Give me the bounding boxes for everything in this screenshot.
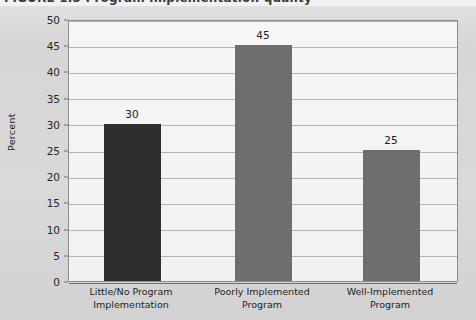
x-axis-label-2-line-1: Poorly Implemented — [214, 286, 310, 299]
figure-container: FIGURE 1.3 Program implementation qualit… — [0, 0, 476, 320]
y-tick-label-30: 30 — [47, 119, 60, 131]
y-axis-ticks: 05101520253035404550 — [0, 20, 68, 282]
y-tick-label-15: 15 — [47, 197, 60, 209]
y-tick-label-35: 35 — [47, 93, 60, 105]
x-axis-label-1-line-2: Implementation — [89, 299, 172, 312]
y-tick-label-0: 0 — [53, 276, 60, 288]
x-axis-label-3: Well-ImplementedProgram — [347, 286, 434, 311]
x-axis-label-1-line-1: Little/No Program — [89, 286, 172, 299]
x-axis-labels: Little/No ProgramImplementationPoorly Im… — [68, 286, 458, 320]
y-tick-label-25: 25 — [47, 145, 60, 157]
x-axis-label-1: Little/No ProgramImplementation — [89, 286, 172, 311]
y-tick-label-5: 5 — [53, 250, 60, 262]
bar-series: 304525 — [69, 21, 457, 281]
y-tick-label-45: 45 — [47, 40, 60, 52]
bar-3[interactable]: 25 — [363, 150, 420, 281]
x-axis-label-3-line-2: Program — [347, 299, 434, 312]
bar-1[interactable]: 30 — [104, 124, 161, 281]
x-axis-label-2: Poorly ImplementedProgram — [214, 286, 310, 311]
bar-value-label-1: 30 — [125, 108, 138, 120]
y-tick-label-10: 10 — [47, 224, 60, 236]
figure-title-strip: FIGURE 1.3 Program implementation qualit… — [0, 0, 476, 6]
bar-value-label-2: 45 — [256, 29, 269, 41]
y-tick-label-50: 50 — [47, 14, 60, 26]
gridline-0 — [69, 283, 457, 284]
y-tick-label-20: 20 — [47, 171, 60, 183]
y-tick-label-40: 40 — [47, 66, 60, 78]
x-axis-label-2-line-2: Program — [214, 299, 310, 312]
bar-value-label-3: 25 — [384, 134, 397, 146]
bar-2[interactable]: 45 — [235, 45, 292, 281]
x-axis-label-3-line-1: Well-Implemented — [347, 286, 434, 299]
plot-area: 304525 — [68, 20, 458, 282]
figure-title: FIGURE 1.3 Program implementation qualit… — [4, 0, 312, 5]
